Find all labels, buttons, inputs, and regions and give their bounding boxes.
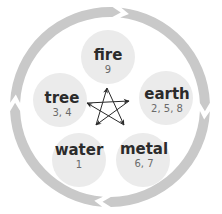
five-elements-diagram: fire 9 earth 2, 5, 8 metal 6, 7 water 1 …: [0, 0, 222, 214]
star-arrow-water-to-fire: [96, 88, 107, 125]
element-node-fire: fire 9: [81, 30, 135, 84]
element-node-tree: tree 3, 4: [33, 73, 87, 127]
element-node-water: water 1: [52, 133, 106, 187]
controlling-star: [87, 88, 129, 125]
star-arrow-earth-to-water: [96, 101, 129, 125]
star-arrow-tree-to-earth: [87, 101, 129, 103]
fire-numbers: 9: [105, 64, 111, 75]
element-node-earth: earth 2, 5, 8: [139, 71, 193, 125]
water-label: water: [55, 141, 104, 159]
fire-label: fire: [94, 46, 123, 64]
earth-label: earth: [144, 85, 190, 103]
water-numbers: 1: [76, 159, 82, 170]
tree-label: tree: [45, 89, 80, 107]
metal-numbers: 6, 7: [134, 158, 153, 169]
metal-label: metal: [120, 140, 168, 158]
tree-numbers: 3, 4: [52, 107, 71, 118]
element-node-metal: metal 6, 7: [116, 133, 170, 187]
earth-numbers: 2, 5, 8: [151, 103, 183, 114]
